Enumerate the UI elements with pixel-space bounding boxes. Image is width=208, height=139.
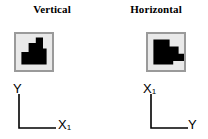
axis-lines-vertical (19, 94, 56, 128)
axis-subscript-vertical-x: 1 (67, 123, 71, 132)
axis-lines-horizontal (151, 94, 188, 128)
panel-vertical: Vertical Y X1 (0, 0, 104, 139)
axes-indicator-vertical: Y X1 (0, 84, 104, 136)
panel-title-vertical: Vertical (0, 3, 104, 16)
panel-horizontal: Horizontal X1 Y (104, 0, 208, 139)
axis-subscript-horizontal-x: 1 (152, 87, 156, 96)
two-panel-orientation-diagram: Vertical Y X1 Horizontal X1 Y (0, 0, 208, 139)
shape-svg-vertical (16, 34, 52, 70)
axis-label-horizontal-x1: X1 (143, 82, 156, 95)
panel-title-horizontal: Horizontal (104, 3, 208, 16)
shape-svg-horizontal (148, 34, 184, 70)
axes-indicator-horizontal: X1 Y (104, 84, 208, 136)
axis-label-horizontal-y: Y (188, 118, 197, 131)
axis-label-vertical-y: Y (13, 82, 22, 95)
black-blob-horizontal-icon (153, 39, 184, 64)
black-blob-vertical-icon (21, 38, 46, 65)
shape-box-horizontal (146, 32, 186, 72)
shape-box-vertical (14, 32, 54, 72)
axis-label-vertical-x1: X1 (58, 118, 71, 131)
